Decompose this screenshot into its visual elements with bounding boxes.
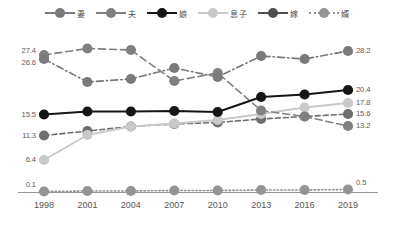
legend-swatch-icon (45, 7, 75, 19)
data-point-marker[interactable] (256, 51, 266, 61)
data-point-marker[interactable] (82, 106, 92, 116)
x-tick-label-2007: 2007 (154, 200, 194, 210)
data-point-marker[interactable] (300, 89, 310, 99)
legend-marker-dot (106, 8, 116, 18)
data-point-marker[interactable] (300, 102, 310, 112)
data-point-marker[interactable] (169, 185, 179, 195)
data-point-marker[interactable] (343, 121, 353, 131)
value-label-left-2: 15.5 (22, 110, 36, 119)
data-point-marker[interactable] (82, 186, 92, 196)
legend-marker-dot (319, 8, 329, 18)
data-point-marker[interactable] (82, 77, 92, 87)
x-tick-label-2019: 2019 (328, 200, 368, 210)
series-婿 (39, 184, 353, 196)
plot-svg (0, 24, 394, 228)
legend-label: 嫁 (290, 8, 298, 19)
data-point-marker[interactable] (213, 107, 223, 117)
legend-label: 妻 (77, 8, 85, 19)
value-label-left-4: 6.4 (26, 155, 36, 164)
data-point-marker[interactable] (256, 105, 266, 115)
line-chart: 妻夫娘息子嫁婿 27.426.615.511.36.40.128.220.417… (0, 0, 394, 228)
legend-swatch-icon (198, 7, 228, 19)
data-point-marker[interactable] (213, 72, 223, 82)
data-point-marker[interactable] (39, 155, 49, 165)
value-label-right-5: 0.5 (356, 178, 366, 187)
data-point-marker[interactable] (169, 76, 179, 86)
legend-item-4[interactable]: 嫁 (258, 7, 298, 19)
x-tick-label-2010: 2010 (198, 200, 238, 210)
data-point-marker[interactable] (169, 106, 179, 116)
x-tick-label-2016: 2016 (285, 200, 325, 210)
chart-legend: 妻夫娘息子嫁婿 (0, 0, 394, 26)
legend-item-1[interactable]: 夫 (96, 7, 136, 19)
x-tick-label-2001: 2001 (67, 200, 107, 210)
data-point-marker[interactable] (126, 106, 136, 116)
legend-item-3[interactable]: 息子 (198, 7, 246, 19)
legend-marker-dot (268, 8, 278, 18)
legend-marker-dot (157, 8, 167, 18)
data-point-marker[interactable] (343, 85, 353, 95)
legend-swatch-icon (96, 7, 126, 19)
legend-item-0[interactable]: 妻 (45, 7, 85, 19)
data-point-marker[interactable] (39, 130, 49, 140)
plot-area (0, 24, 394, 228)
data-point-marker[interactable] (343, 46, 353, 56)
data-point-marker[interactable] (169, 63, 179, 73)
value-label-left-5: 0.1 (26, 180, 36, 189)
legend-label: 夫 (128, 8, 136, 19)
value-label-right-4: 13.2 (356, 121, 370, 130)
legend-marker-dot (208, 8, 218, 18)
legend-swatch-icon (258, 7, 288, 19)
data-point-marker[interactable] (39, 54, 49, 64)
legend-label: 娘 (179, 8, 187, 19)
data-point-marker[interactable] (126, 74, 136, 84)
legend-marker-dot (55, 8, 65, 18)
data-point-marker[interactable] (126, 45, 136, 55)
data-point-marker[interactable] (256, 92, 266, 102)
legend-swatch-icon (147, 7, 177, 19)
legend-label: 婿 (341, 8, 349, 19)
data-point-marker[interactable] (300, 54, 310, 64)
x-tick-label-2013: 2013 (241, 200, 281, 210)
data-point-marker[interactable] (300, 111, 310, 121)
data-point-marker[interactable] (39, 186, 49, 196)
data-point-marker[interactable] (343, 98, 353, 108)
legend-item-2[interactable]: 娘 (147, 7, 187, 19)
value-label-right-1: 20.4 (356, 85, 370, 94)
data-point-marker[interactable] (300, 185, 310, 195)
value-label-left-3: 11.3 (22, 131, 36, 140)
data-point-marker[interactable] (213, 185, 223, 195)
data-point-marker[interactable] (343, 184, 353, 194)
value-label-left-0: 27.4 (22, 46, 36, 55)
x-tick-label-2004: 2004 (111, 200, 151, 210)
value-label-right-3: 15.6 (356, 109, 370, 118)
legend-swatch-icon (309, 7, 339, 19)
value-label-right-2: 17.8 (356, 98, 370, 107)
x-tick-label-1998: 1998 (24, 200, 64, 210)
data-point-marker[interactable] (126, 121, 136, 131)
data-point-marker[interactable] (82, 43, 92, 53)
legend-item-5[interactable]: 婿 (309, 7, 349, 19)
data-point-marker[interactable] (169, 118, 179, 128)
data-point-marker[interactable] (39, 109, 49, 119)
data-point-marker[interactable] (256, 185, 266, 195)
data-point-marker[interactable] (82, 130, 92, 140)
data-point-marker[interactable] (126, 186, 136, 196)
value-label-right-0: 28.2 (356, 46, 370, 55)
value-label-left-1: 26.6 (22, 58, 36, 67)
data-point-marker[interactable] (343, 109, 353, 119)
legend-label: 息子 (230, 8, 246, 19)
